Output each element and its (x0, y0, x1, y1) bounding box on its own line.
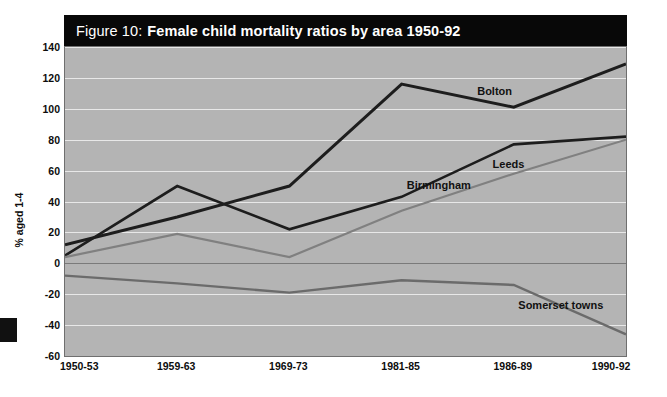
figure-title: Female child mortality ratios by area 19… (147, 23, 460, 39)
plot-area: BoltonBirminghamLeedsSomerset towns (64, 46, 627, 357)
x-tick-label: 1986-89 (494, 360, 533, 372)
y-tick-label: -40 (2, 319, 60, 331)
x-tick-label: 1959-63 (157, 360, 196, 372)
y-tick-label: 100 (2, 103, 60, 115)
x-tick-label: 1950-53 (60, 360, 99, 372)
figure-title-bar: Figure 10: Female child mortality ratios… (64, 15, 627, 46)
y-tick-label: 120 (2, 72, 60, 84)
y-tick-label: 60 (2, 165, 60, 177)
series-label-bolton: Bolton (477, 85, 512, 97)
series-line-leeds (65, 140, 626, 257)
figure-root: Figure 10: Female child mortality ratios… (0, 0, 667, 397)
y-tick-label: 20 (2, 226, 60, 238)
y-tick-label: 140 (2, 41, 60, 53)
series-label-somerset: Somerset towns (518, 299, 603, 311)
y-tick-label: 0 (2, 257, 60, 269)
x-axis: 1950-531959-631969-731981-851986-891990-… (64, 360, 627, 380)
y-tick-label: 40 (2, 196, 60, 208)
x-tick-label: 1981-85 (381, 360, 420, 372)
y-tick-label: 80 (2, 134, 60, 146)
y-tick-label: -20 (2, 288, 60, 300)
x-tick-label: 1969-73 (269, 360, 308, 372)
series-label-leeds: Leeds (493, 158, 525, 170)
series-line-bolton (65, 64, 626, 245)
x-tick-label: 1990-92 (592, 360, 631, 372)
y-axis-title: % aged 1-4 (13, 175, 25, 265)
series-label-birmingham: Birmingham (407, 179, 471, 191)
series-line-birmingham (65, 137, 626, 256)
y-tick-label: -60 (2, 350, 60, 362)
figure-number: Figure 10: (76, 23, 142, 39)
y-axis: % aged 1-4 140120100806040200-20-40-60 (0, 46, 60, 357)
plot-canvas: BoltonBirminghamLeedsSomerset towns (65, 47, 626, 356)
